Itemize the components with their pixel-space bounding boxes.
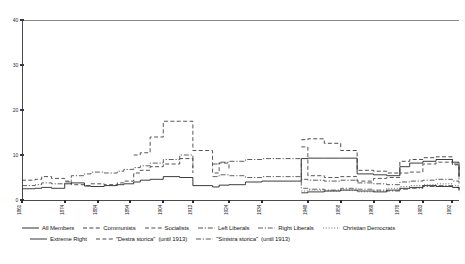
legend-label: Christian Democrats — [343, 225, 395, 231]
legend-item[interactable]: Christian Democrats — [323, 225, 395, 231]
legend-item[interactable]: Right Liberals — [258, 225, 313, 231]
x-axis-line — [22, 200, 459, 201]
x-tick-mark — [129, 200, 131, 203]
x-tick-label: 1913 — [187, 205, 192, 215]
x-tick-label: 1874 — [59, 205, 64, 215]
legend-row-primary: All MembersCommunistsSocialistsLeft Libe… — [22, 222, 459, 233]
series-line — [213, 159, 459, 185]
legend-item[interactable]: "Destra storica"(until 1913) — [96, 236, 188, 242]
legend-note: (until 1913) — [261, 236, 290, 242]
series-canvas — [22, 20, 459, 200]
y-tick-label: 40 — [13, 17, 18, 23]
legend-row-secondary: Extreme Right"Destra storica"(until 1913… — [22, 233, 459, 244]
legend-item[interactable]: All Members — [22, 225, 74, 231]
legend-line-swatch — [96, 236, 113, 242]
x-tick-label: 1958 — [335, 205, 340, 215]
legend-swatch — [22, 225, 39, 231]
x-tick-mark — [64, 200, 66, 203]
series-line — [134, 121, 459, 181]
chart-root: 010203040 186118741884189419041913192419… — [0, 0, 465, 264]
x-tick-mark — [340, 200, 342, 203]
series-line — [22, 155, 193, 186]
legend-label: Extreme Right — [50, 236, 87, 242]
legend-item[interactable]: Socialists — [145, 225, 189, 231]
legend-label: "Destra storica" — [116, 236, 156, 242]
y-tick-label: 20 — [13, 107, 18, 113]
legend-item[interactable]: Left Liberals — [198, 225, 249, 231]
x-tick-label: 1861 — [17, 205, 22, 215]
x-tick-mark — [97, 200, 99, 203]
legend-note: (until 1913) — [158, 236, 187, 242]
legend-swatch — [198, 225, 215, 231]
legend-label: Socialists — [165, 225, 189, 231]
chart-legend: All MembersCommunistsSocialistsLeft Libe… — [22, 222, 459, 244]
series-line — [22, 158, 459, 189]
series-line — [301, 186, 459, 193]
x-tick-mark — [228, 200, 230, 203]
y-tick-label: 10 — [13, 152, 18, 158]
legend-item[interactable]: "Sinistra storica"(until 1913) — [196, 236, 290, 242]
legend-label: All Members — [42, 225, 74, 231]
legend-label: "Sinistra storica" — [216, 236, 258, 242]
x-tick-mark — [162, 200, 164, 203]
legend-line-swatch — [83, 225, 100, 231]
legend-line-swatch — [196, 236, 213, 242]
legend-line-swatch — [258, 225, 275, 231]
legend-item[interactable]: Extreme Right — [30, 236, 87, 242]
legend-swatch — [145, 225, 162, 231]
x-tick-mark — [422, 200, 424, 203]
x-tick-label: 1976 — [394, 205, 399, 215]
x-tick-mark — [399, 200, 401, 203]
legend-swatch — [96, 236, 113, 242]
x-tick-label: 1983 — [417, 205, 422, 215]
x-tick-label: 1934 — [256, 205, 261, 215]
x-tick-mark — [192, 200, 194, 203]
legend-line-swatch — [22, 225, 39, 231]
plot-area: 010203040 186118741884189419041913192419… — [22, 20, 459, 200]
legend-swatch — [30, 236, 47, 242]
legend-swatch — [323, 225, 340, 231]
x-tick-label: 1968 — [368, 205, 373, 215]
x-tick-label: 1884 — [92, 205, 97, 215]
series-line — [22, 159, 193, 186]
y-tick-label: 0 — [15, 197, 18, 203]
x-tick-mark — [261, 200, 263, 203]
x-tick-mark — [451, 200, 453, 203]
legend-item[interactable]: Communists — [83, 225, 135, 231]
x-tick-label: 1948 — [302, 205, 307, 215]
x-tick-label: 1894 — [125, 205, 130, 215]
x-tick-mark — [21, 200, 23, 203]
legend-label: Right Liberals — [278, 225, 313, 231]
x-tick-label: 1992 — [447, 205, 452, 215]
legend-line-swatch — [145, 225, 162, 231]
legend-swatch — [196, 236, 213, 242]
x-tick-label: 1924 — [224, 205, 229, 215]
legend-label: Communists — [103, 225, 135, 231]
series-line — [301, 139, 459, 180]
legend-swatch — [258, 225, 275, 231]
series-line — [301, 184, 459, 193]
legend-swatch — [83, 225, 100, 231]
x-tick-mark — [373, 200, 375, 203]
legend-label: Left Liberals — [218, 225, 249, 231]
x-tick-label: 1904 — [158, 205, 163, 215]
x-tick-mark — [307, 200, 309, 203]
y-tick-label: 30 — [13, 62, 18, 68]
legend-line-swatch — [198, 225, 215, 231]
legend-line-swatch — [30, 236, 47, 242]
legend-line-swatch — [323, 225, 340, 231]
